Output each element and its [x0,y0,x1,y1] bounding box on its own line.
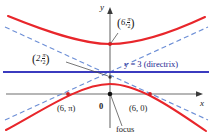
inner-point-theta: π 2 [42,52,45,66]
label-right-intercept: (6, 0) [129,104,147,113]
lower-branch-curve [6,84,206,131]
label-directrix: y = 3 (directrix) [124,60,178,69]
theta-denominator: 2 [42,58,45,65]
label-upper-vertex: (6, π 2 ) [117,16,134,30]
leader-focus [111,96,122,126]
label-left-intercept: (6, π) [57,104,75,113]
point-left-intercept [66,92,70,96]
y-axis-arrow [107,7,113,14]
upper-branch-curve [8,16,205,44]
point-right-intercept [148,92,152,96]
label-origin: 0 [99,102,103,111]
theta-denominator: 2 [127,22,130,29]
point-inner-2-pi-2 [108,75,111,78]
paren-close: ) [45,52,49,66]
theta-numerator: π [42,52,45,58]
label-focus: focus [116,125,134,134]
polar-conic-figure [0,0,212,138]
point-focus-origin [108,92,113,97]
theta-numerator: π [127,16,130,22]
upper-vertex-theta: π 2 [127,16,130,30]
leader-upper-vertex [111,33,118,43]
paren-close: ) [130,16,134,30]
y-axis-label: y [100,3,104,12]
label-inner-point: (2, π 2 ) [32,52,49,66]
x-axis-label: x [200,99,204,108]
leader-inner-point [66,62,108,76]
x-axis-arrow [196,91,203,97]
